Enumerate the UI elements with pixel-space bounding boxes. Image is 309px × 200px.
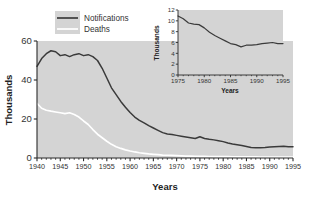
legend-label-deaths: Deaths	[84, 25, 110, 34]
x-tick-label: 1945	[52, 162, 68, 171]
y-tick-label: 60	[21, 35, 32, 46]
main-y-tick-labels: 0204060	[21, 35, 32, 163]
y-tick-label: 4	[171, 50, 175, 57]
x-tick-label: 1950	[76, 162, 92, 171]
legend-label-notifications: Notifications	[84, 14, 129, 23]
x-tick-label: 1980	[215, 162, 231, 171]
y-tick-label: 10	[168, 17, 175, 24]
y-tick-label: 20	[21, 113, 32, 124]
inset-x-axis-title: Years	[221, 87, 239, 94]
x-tick-label: 1985	[238, 162, 254, 171]
main-x-axis-title: Years	[152, 181, 177, 192]
legend-background	[55, 11, 80, 34]
x-tick-label: 1975	[171, 77, 185, 84]
y-tick-label: 40	[21, 74, 32, 85]
y-tick-label: 12	[168, 6, 175, 13]
x-tick-label: 1940	[29, 162, 45, 171]
x-tick-label: 1970	[169, 162, 185, 171]
x-tick-label: 1960	[122, 162, 138, 171]
x-tick-label: 1990	[250, 77, 264, 84]
x-tick-label: 1990	[262, 162, 278, 171]
main-y-axis-title: Thousands	[3, 75, 14, 126]
chart-svg: 0204060 19401945195019551960196519701975…	[0, 0, 309, 200]
x-tick-label: 1955	[99, 162, 115, 171]
main-x-tick-labels: 1940194519501955196019651970197519801985…	[29, 162, 301, 171]
x-tick-label: 1995	[276, 77, 290, 84]
x-tick-label: 1980	[197, 77, 211, 84]
chart-legend: Notifications Deaths	[55, 11, 129, 34]
x-tick-label: 1975	[192, 162, 208, 171]
inset-y-axis-title: Thousands	[153, 25, 160, 61]
chart-figure: 0204060 19401945195019551960196519701975…	[0, 0, 309, 200]
x-tick-label: 1985	[224, 77, 238, 84]
y-tick-label: 8	[171, 28, 175, 35]
x-tick-label: 1965	[145, 162, 161, 171]
x-tick-label: 1995	[285, 162, 301, 171]
y-tick-label: 2	[171, 60, 175, 67]
y-tick-label: 6	[171, 39, 175, 46]
